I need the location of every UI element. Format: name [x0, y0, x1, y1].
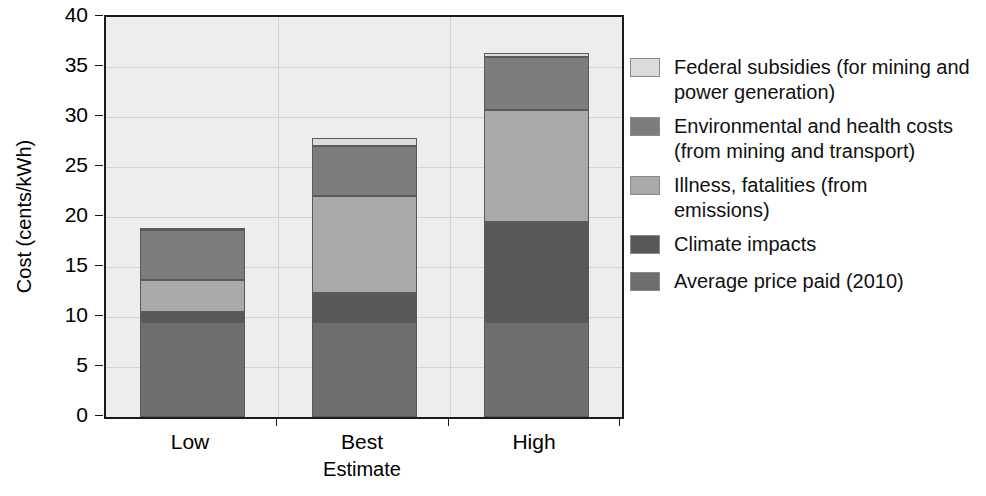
legend-label-line2: power generation): [674, 81, 835, 103]
y-tick-mark: [95, 65, 103, 66]
x-tick-label-best: Best: [282, 430, 442, 454]
bar-segment-environmental-health-costs[interactable]: [140, 230, 245, 280]
y-axis-title: Cost (cents/kWh): [13, 107, 36, 327]
y-tick-mark: [95, 415, 103, 416]
bar-segment-climate-impacts[interactable]: [484, 222, 589, 322]
bar-segment-environmental-health-costs[interactable]: [484, 57, 589, 110]
plot-area: [104, 15, 624, 419]
x-tick-label-high: High: [454, 430, 614, 454]
legend-label-environmental-health-costs: Environmental and health costs (from min…: [674, 114, 986, 164]
legend-item-federal-subsidies[interactable]: Federal subsidies (for mining and power …: [630, 55, 986, 105]
bar-segment-illness-fatalities[interactable]: [312, 196, 417, 293]
y-tick-mark: [95, 265, 103, 266]
legend-label-line1: Federal subsidies (for mining and: [674, 56, 970, 78]
y-tick-label-35: 35: [40, 54, 88, 75]
x-tick-mark: [276, 417, 277, 426]
bar-segment-climate-impacts[interactable]: [140, 312, 245, 322]
y-tick-label-30: 30: [40, 104, 88, 125]
y-tick-mark: [95, 165, 103, 166]
bar-segment-federal-subsidies[interactable]: [140, 228, 245, 230]
x-tick-label-low: Low: [110, 430, 270, 454]
y-tick-mark: [95, 315, 103, 316]
legend-item-climate-impacts[interactable]: Climate impacts: [630, 232, 986, 260]
y-tick-label-20: 20: [40, 204, 88, 225]
legend-item-environmental-health-costs[interactable]: Environmental and health costs (from min…: [630, 114, 986, 164]
gridline-vertical: [278, 17, 279, 417]
legend-item-illness-fatalities[interactable]: Illness, fatalities (from emissions): [630, 173, 986, 223]
x-tick-mark: [619, 417, 620, 426]
legend-label-line1: Environmental and health costs: [674, 115, 953, 137]
y-tick-label-10: 10: [40, 304, 88, 325]
legend-swatch-illness-fatalities: [630, 176, 660, 195]
bar-segment-climate-impacts[interactable]: [312, 293, 417, 322]
chart-legend: Federal subsidies (for mining and power …: [630, 55, 986, 306]
legend-item-average-price-paid[interactable]: Average price paid (2010): [630, 269, 986, 297]
y-tick-label-40: 40: [40, 4, 88, 25]
y-tick-label-15: 15: [40, 254, 88, 275]
y-tick-label-0: 0: [40, 404, 88, 425]
bar-segment-illness-fatalities[interactable]: [140, 280, 245, 312]
y-tick-mark: [95, 365, 103, 366]
bar-segment-federal-subsidies[interactable]: [484, 53, 589, 57]
bar-segment-average-price-paid[interactable]: [312, 322, 417, 417]
chart-figure: Cost (cents/kWh) 40 35 30 25 20 15 10 5 …: [0, 0, 986, 496]
y-tick-mark: [95, 115, 103, 116]
legend-swatch-federal-subsidies: [630, 58, 660, 77]
legend-label-climate-impacts: Climate impacts: [674, 232, 986, 257]
legend-label-line2: (from mining and transport): [674, 140, 915, 162]
legend-swatch-environmental-health-costs: [630, 117, 660, 136]
bar-segment-environmental-health-costs[interactable]: [312, 146, 417, 196]
bar-segment-average-price-paid[interactable]: [140, 322, 245, 417]
legend-label-illness-fatalities: Illness, fatalities (from emissions): [674, 173, 986, 223]
bar-segment-federal-subsidies[interactable]: [312, 138, 417, 146]
bar-segment-illness-fatalities[interactable]: [484, 110, 589, 222]
legend-label-average-price-paid: Average price paid (2010): [674, 269, 986, 294]
y-axis-ticks: 40 35 30 25 20 15 10 5 0: [40, 0, 88, 496]
legend-swatch-average-price-paid: [630, 272, 660, 291]
bar-segment-average-price-paid[interactable]: [484, 322, 589, 417]
y-tick-label-25: 25: [40, 154, 88, 175]
legend-label-federal-subsidies: Federal subsidies (for mining and power …: [674, 55, 986, 105]
y-tick-label-5: 5: [40, 354, 88, 375]
legend-label-line2: emissions): [674, 199, 770, 221]
legend-label-line1: Illness, fatalities (from: [674, 174, 867, 196]
x-tick-mark: [448, 417, 449, 426]
x-axis-title: Estimate: [104, 458, 620, 481]
y-tick-mark: [95, 215, 103, 216]
y-tick-mark: [95, 15, 103, 16]
gridline-vertical: [450, 17, 451, 417]
legend-swatch-climate-impacts: [630, 235, 660, 254]
